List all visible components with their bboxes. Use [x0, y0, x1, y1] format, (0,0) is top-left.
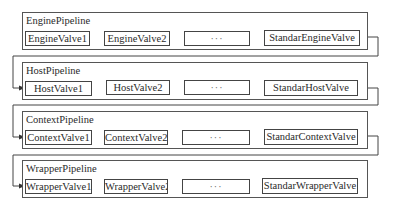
valve-context-ellipsis: ··· — [182, 130, 250, 145]
valve-host-ellipsis: ··· — [184, 80, 250, 95]
valve-context-standard: StandarContextValve — [264, 129, 358, 145]
valve-engine-1: EngineValve1 — [25, 31, 90, 46]
valve-context-1: ContextValve1 — [25, 130, 92, 145]
valve-wrapper-ellipsis: ··· — [182, 179, 250, 194]
valve-wrapper-standard: StandarWrapperValve — [262, 178, 358, 194]
pipeline-title: HostPipeline — [26, 64, 80, 77]
valve-wrapper-1: WrapperValve1 — [25, 179, 92, 194]
pipeline-title: WrapperPipeline — [26, 162, 97, 175]
valve-engine-standard: StandarEngineValve — [264, 30, 360, 46]
valve-engine-2: EngineValve2 — [104, 31, 170, 46]
valve-host-standard: StandarHostValve — [264, 80, 358, 96]
valve-wrapper-2: WrapperValve2 — [104, 179, 168, 194]
valve-context-2: ContextValve2 — [104, 130, 168, 145]
pipeline-title: EnginePipeline — [26, 14, 90, 27]
valve-host-2: HostValve2 — [106, 80, 170, 95]
valve-host-1: HostValve1 — [25, 81, 92, 96]
pipeline-title: ContextPipeline — [26, 113, 94, 126]
valve-engine-ellipsis: ··· — [184, 31, 250, 46]
